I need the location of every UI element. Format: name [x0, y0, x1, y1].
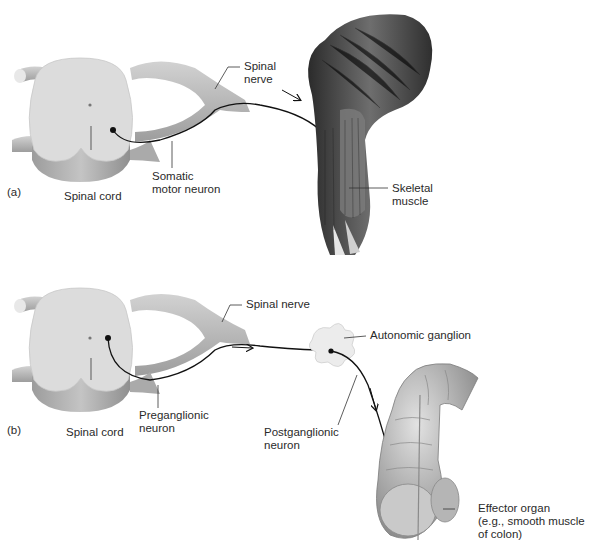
label-somatic-line1: Somatic	[152, 170, 194, 183]
label-preganglionic-line2: neuron	[139, 422, 175, 435]
label-postganglionic-line2: neuron	[264, 439, 300, 452]
skeletal-muscle	[308, 14, 432, 255]
label-spinal-cord-a: Spinal cord	[64, 190, 122, 203]
label-effector-line1: Effector organ	[478, 502, 550, 515]
label-effector-line3: of colon)	[478, 528, 522, 541]
panel-letter-b: (b)	[7, 424, 21, 436]
label-spinal-nerve-b: Spinal nerve	[246, 298, 310, 311]
colon-effector-organ	[377, 364, 479, 540]
autonomic-vs-somatic-diagram	[0, 0, 589, 555]
label-autonomic-ganglion: Autonomic ganglion	[370, 329, 471, 342]
panel-letter-a: (a)	[7, 186, 21, 198]
label-effector-line2: (e.g., smooth muscle	[478, 515, 585, 528]
label-preganglionic-line1: Preganglionic	[139, 409, 209, 422]
spinal-cord-b	[12, 288, 133, 412]
spinal-cord-a	[12, 58, 133, 182]
label-postganglionic-line1: Postganglionic	[264, 426, 339, 439]
label-spinal-nerve-a-line2: nerve	[244, 73, 273, 86]
spinal-nerve-b	[130, 294, 250, 394]
label-skeletal-line1: Skeletal	[392, 182, 433, 195]
autonomic-ganglion	[309, 323, 355, 366]
label-somatic-line2: motor neuron	[152, 183, 220, 196]
label-spinal-nerve-a-line1: Spinal	[244, 60, 276, 73]
label-skeletal-line2: muscle	[392, 195, 428, 208]
label-spinal-cord-b: Spinal cord	[66, 426, 124, 439]
spinal-nerve-a	[130, 62, 250, 163]
